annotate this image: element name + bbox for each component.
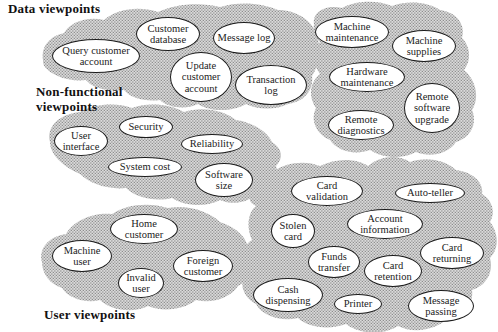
node-message-log: Message log: [213, 22, 275, 54]
node-remote-software-upgrade: Remote software upgrade: [404, 83, 460, 133]
node-machine-user: Machine user: [52, 240, 112, 272]
node-transaction-log: Transaction log: [235, 65, 307, 105]
node-card-returning: Card returning: [420, 237, 484, 269]
label-non-functional-viewpoints: Non-functional viewpoints: [36, 85, 123, 114]
label-data-viewpoints: Data viewpoints: [8, 2, 100, 17]
label-user-viewpoints: User viewpoints: [44, 308, 135, 323]
node-software-size: Software size: [195, 163, 253, 197]
node-system-cost: System cost: [108, 157, 182, 177]
node-cash-dispensing: Cash dispensing: [253, 278, 323, 312]
node-auto-teller: Auto-teller: [395, 183, 465, 203]
node-remote-diagnostics: Remote diagnostics: [328, 110, 394, 140]
node-card-validation: Card validation: [291, 176, 363, 206]
node-printer: Printer: [334, 294, 382, 314]
node-query-customer-account: Query customer account: [52, 39, 140, 73]
node-hardware-maintenance: Hardware maintenance: [329, 62, 405, 92]
node-reliability: Reliability: [181, 134, 243, 154]
viewpoints-diagram: Data viewpoints Non-functional viewpoint…: [0, 0, 498, 332]
node-home-customer: Home customer: [110, 214, 178, 244]
node-machine-maintenance: Machine maintenance: [315, 16, 389, 48]
node-card-retention: Card retention: [364, 255, 422, 287]
node-account-information: Account information: [347, 209, 423, 239]
node-funds-transfer: Funds transfer: [308, 246, 360, 278]
node-security: Security: [119, 116, 173, 138]
node-message-passing: Message passing: [408, 290, 474, 322]
node-foreign-customer: Foreign customer: [173, 250, 233, 282]
node-customer-database: Customer database: [136, 17, 200, 51]
node-stolen-card: Stolen card: [271, 214, 315, 248]
node-invalid-user: Invalid user: [118, 268, 164, 298]
node-machine-supplies: Machine supplies: [392, 30, 456, 62]
node-update-customer-account: Update customer account: [170, 52, 232, 102]
node-user-interface: User interface: [54, 126, 108, 156]
